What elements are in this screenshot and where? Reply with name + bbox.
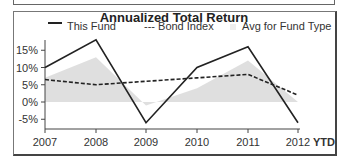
ytd-label: YTD: [313, 136, 335, 148]
y-tick-label: 0%: [22, 96, 38, 108]
x-tick-label: 2010: [185, 136, 209, 148]
y-tick-label: 5%: [22, 79, 38, 91]
y-tick-label: 10%: [16, 62, 38, 74]
y-tick-label: 15%: [16, 44, 38, 56]
x-tick-label: 2009: [134, 136, 158, 148]
x-tick-label: 2008: [84, 136, 108, 148]
x-tick-label: 2012: [286, 136, 310, 148]
x-tick-label: 2011: [236, 136, 260, 148]
y-tick-label: -5%: [18, 113, 38, 125]
chart-plot: 15%10%5%0%-5%200720082009201020112012YTD: [0, 0, 348, 163]
x-tick-label: 2007: [33, 136, 57, 148]
